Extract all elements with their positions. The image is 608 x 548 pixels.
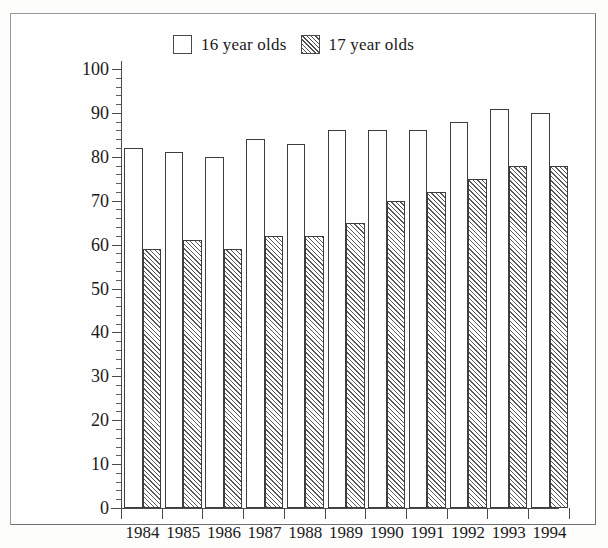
- y-axis-major-tick: [112, 113, 121, 114]
- bar-1989-16-year-olds: [328, 130, 347, 508]
- x-axis-tick: [202, 508, 203, 519]
- bars-container: [121, 69, 569, 508]
- x-axis-tick-label-1994: 1994: [533, 524, 567, 541]
- y-axis-major-tick: [112, 201, 121, 202]
- bar-1986-16-year-olds: [205, 157, 224, 508]
- bar-1992-16-year-olds: [450, 122, 469, 508]
- x-axis-tick: [162, 508, 163, 519]
- chart-frame: 16 year olds 17 year olds 01020304050607…: [10, 13, 596, 525]
- x-axis-tick: [121, 508, 122, 519]
- x-axis-tick-label-1989: 1989: [329, 524, 363, 541]
- y-axis-major-tick: [112, 332, 121, 333]
- bar-1992-17-year-olds: [468, 179, 487, 508]
- empty-square-swatch: [173, 35, 192, 54]
- bar-1991-17-year-olds: [427, 192, 446, 508]
- chart-figure: 16 year olds 17 year olds 01020304050607…: [0, 0, 608, 548]
- y-axis-tick-label: 20: [73, 411, 109, 429]
- x-axis-tick: [325, 508, 326, 519]
- y-axis-major-tick: [112, 420, 121, 421]
- x-axis-tick: [243, 508, 244, 519]
- bar-1990-16-year-olds: [368, 130, 387, 508]
- x-axis-tick-label-1987: 1987: [248, 524, 282, 541]
- x-axis-tick: [284, 508, 285, 519]
- bar-1991-16-year-olds: [409, 130, 428, 508]
- x-axis-tick: [569, 508, 570, 519]
- x-axis-tick: [447, 508, 448, 519]
- y-axis-tick-label: 30: [73, 367, 109, 385]
- x-axis-tick: [365, 508, 366, 519]
- y-axis-major-tick: [112, 464, 121, 465]
- x-axis-tick-label-1990: 1990: [370, 524, 404, 541]
- y-axis-major-tick: [112, 157, 121, 158]
- bar-1990-17-year-olds: [387, 201, 406, 508]
- legend-label-16-year-olds: 16 year olds: [201, 36, 287, 53]
- x-axis-tick: [406, 508, 407, 519]
- y-axis-major-tick: [112, 69, 121, 70]
- bar-1989-17-year-olds: [346, 223, 365, 508]
- bar-1987-17-year-olds: [265, 236, 284, 508]
- y-axis-tick-label: 60: [73, 236, 109, 254]
- hatched-square-swatch: [301, 35, 320, 54]
- y-axis-tick-label: 50: [73, 280, 109, 298]
- bar-1985-16-year-olds: [165, 152, 184, 508]
- x-axis-tick-label-1988: 1988: [288, 524, 322, 541]
- y-axis-tick-label: 0: [73, 499, 109, 517]
- x-axis-tick: [487, 508, 488, 519]
- y-axis-tick-label: 10: [73, 455, 109, 473]
- bar-1985-17-year-olds: [183, 240, 202, 508]
- y-axis-major-tick: [112, 289, 121, 290]
- x-axis-tick-label-1991: 1991: [410, 524, 444, 541]
- y-axis-tick-label: 100: [73, 60, 109, 78]
- bar-1987-16-year-olds: [246, 139, 265, 508]
- y-axis-tick-label: 70: [73, 192, 109, 210]
- y-axis-major-tick: [112, 508, 121, 509]
- legend-label-17-year-olds: 17 year olds: [329, 36, 415, 53]
- bar-1988-17-year-olds: [305, 236, 324, 508]
- bar-1993-16-year-olds: [490, 109, 509, 508]
- x-axis-tick-label-1985: 1985: [166, 524, 200, 541]
- bar-1994-16-year-olds: [531, 113, 550, 508]
- y-axis-major-tick: [112, 245, 121, 246]
- y-axis-tick-label: 80: [73, 148, 109, 166]
- bar-1986-17-year-olds: [224, 249, 243, 508]
- legend-entry-17-year-olds: 17 year olds: [301, 35, 415, 54]
- x-axis-tick: [528, 508, 529, 519]
- bar-1988-16-year-olds: [287, 144, 306, 508]
- bar-1984-16-year-olds: [124, 148, 143, 508]
- x-axis-tick-label-1984: 1984: [126, 524, 160, 541]
- legend-entry-16-year-olds: 16 year olds: [173, 35, 287, 54]
- x-axis-line: [111, 508, 559, 509]
- x-axis-tick-label-1993: 1993: [492, 524, 526, 541]
- y-axis-tick-label: 40: [73, 323, 109, 341]
- y-axis-major-tick: [112, 376, 121, 377]
- x-axis-tick-label-1986: 1986: [207, 524, 241, 541]
- bar-1993-17-year-olds: [509, 166, 528, 508]
- x-axis-tick-label-1992: 1992: [451, 524, 485, 541]
- bar-1994-17-year-olds: [550, 166, 569, 508]
- chart-legend: 16 year olds 17 year olds: [173, 35, 414, 54]
- y-axis-tick-label: 90: [73, 104, 109, 122]
- plot-area: 0102030405060708090100 19841985198619871…: [121, 69, 569, 508]
- bar-1984-17-year-olds: [143, 249, 162, 508]
